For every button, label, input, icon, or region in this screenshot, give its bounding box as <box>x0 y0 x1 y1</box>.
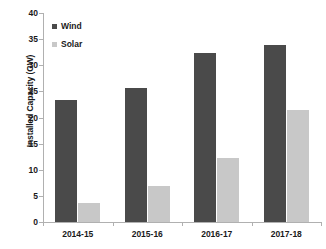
y-axis-tick-label: 25 <box>12 87 38 96</box>
y-axis-tick-mark <box>39 91 43 92</box>
legend-swatch-wind-icon <box>52 24 57 29</box>
bar-solar-2015-16 <box>148 186 170 222</box>
chart-legend: Wind Solar <box>52 22 82 58</box>
legend-label-solar: Solar <box>61 40 82 49</box>
legend-swatch-solar-icon <box>52 42 57 47</box>
bar-solar-2017-18 <box>287 110 309 222</box>
x-axis-category-label: 2015-16 <box>132 229 163 239</box>
y-axis-tick-label: 35 <box>12 35 38 44</box>
x-axis-tick-mark <box>43 222 44 226</box>
y-axis-tick-mark <box>39 170 43 171</box>
y-axis-tick-mark <box>39 39 43 40</box>
y-axis-tick-label: 0 <box>12 218 38 227</box>
y-axis-tick-mark <box>39 144 43 145</box>
x-axis-tick-mark <box>113 222 114 226</box>
bar-wind-2014-15 <box>55 100 77 222</box>
y-axis-tick-mark <box>39 196 43 197</box>
x-axis-tick-mark <box>252 222 253 226</box>
bar-wind-2016-17 <box>194 53 216 222</box>
y-axis-tick-mark <box>39 118 43 119</box>
y-axis-tick-label: 5 <box>12 192 38 201</box>
y-axis-tick-label: 10 <box>12 166 38 175</box>
y-axis-tick-label: 30 <box>12 61 38 70</box>
legend-item-wind: Wind <box>52 22 82 31</box>
bar-chart: Installed Capacity (GW) 0510152025303540… <box>0 0 326 249</box>
x-axis-category-label: 2016-17 <box>201 229 232 239</box>
y-axis-tick-label: 40 <box>12 9 38 18</box>
y-axis-line <box>43 13 44 222</box>
bar-wind-2015-16 <box>125 88 147 222</box>
legend-label-wind: Wind <box>61 22 82 31</box>
y-axis-tick-mark <box>39 13 43 14</box>
legend-item-solar: Solar <box>52 40 82 49</box>
x-axis-category-label: 2014-15 <box>62 229 93 239</box>
x-axis-tick-mark <box>321 222 322 226</box>
bar-solar-2016-17 <box>217 158 239 222</box>
y-axis-tick-label: 15 <box>12 139 38 148</box>
bar-wind-2017-18 <box>264 45 286 222</box>
x-axis-tick-mark <box>182 222 183 226</box>
plot-area: 0510152025303540 2014-152015-162016-1720… <box>43 13 321 222</box>
bar-solar-2014-15 <box>78 203 100 222</box>
x-axis-category-label: 2017-18 <box>271 229 302 239</box>
y-axis-tick-label: 20 <box>12 113 38 122</box>
y-axis-tick-mark <box>39 65 43 66</box>
